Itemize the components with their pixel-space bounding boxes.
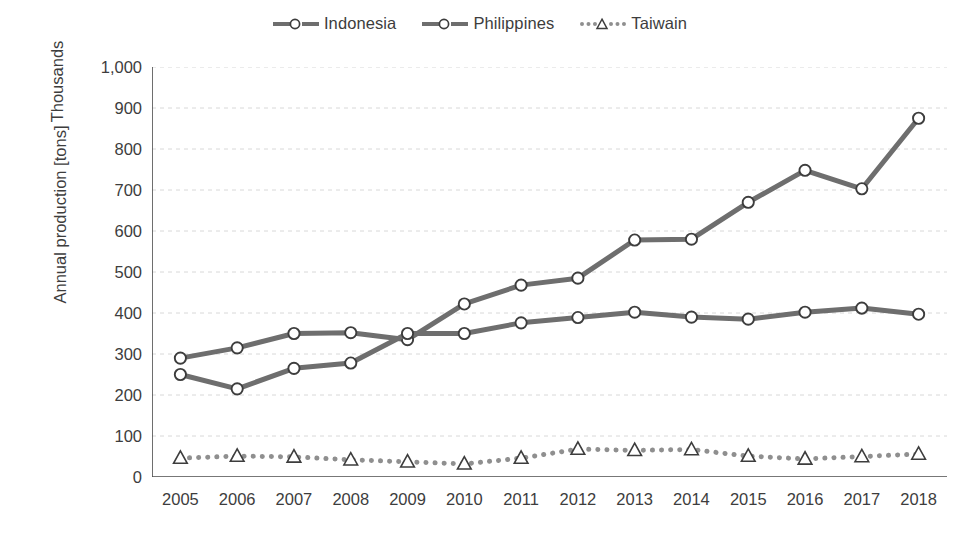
triangle-marker-icon	[595, 17, 609, 31]
data-point-marker	[798, 452, 812, 464]
legend-label-indonesia: Indonesia	[324, 14, 396, 33]
y-axis-tick-label: 1,000	[101, 58, 142, 77]
circle-marker-icon	[288, 17, 302, 31]
data-point-marker	[571, 442, 585, 454]
x-axis-tick-label: 2014	[673, 490, 710, 509]
y-axis-tick-label: 500	[114, 263, 142, 282]
y-axis-tick-label: 600	[114, 222, 142, 241]
data-point-marker	[743, 197, 754, 208]
y-axis-tick-label: 200	[114, 386, 142, 405]
data-point-marker	[459, 328, 470, 339]
data-point-marker	[345, 327, 356, 338]
y-axis-units-label: Thousands	[48, 22, 67, 142]
data-point-marker	[572, 273, 583, 284]
data-point-marker	[402, 328, 413, 339]
y-axis-tick-label: 100	[114, 427, 142, 446]
data-point-marker	[516, 280, 527, 291]
y-axis-tick-label: 700	[114, 181, 142, 200]
chart-legend: Indonesia Philippines Taiwain	[0, 14, 960, 33]
data-point-marker	[913, 309, 924, 320]
legend-symbol-taiwain	[580, 17, 626, 31]
x-axis-tick-label: 2018	[900, 490, 937, 509]
data-point-marker	[516, 317, 527, 328]
legend-symbol-philippines	[422, 17, 468, 31]
x-axis-tick-label: 2011	[503, 490, 538, 509]
legend-symbol-indonesia	[273, 17, 319, 31]
data-point-marker	[686, 234, 697, 245]
x-axis-tick-label: 2007	[276, 490, 313, 509]
data-point-marker	[913, 113, 924, 124]
data-point-marker	[629, 234, 640, 245]
legend-item-philippines[interactable]: Philippines	[422, 14, 554, 33]
x-axis-tick-label: 2010	[446, 490, 483, 509]
legend-label-taiwain: Taiwain	[631, 14, 687, 33]
legend-label-philippines: Philippines	[473, 14, 554, 33]
circle-marker-icon	[437, 17, 451, 31]
data-point-marker	[572, 312, 583, 323]
x-axis-tick-label: 2005	[162, 490, 199, 509]
legend-item-indonesia[interactable]: Indonesia	[273, 14, 396, 33]
y-axis-tick-label: 0	[133, 468, 142, 487]
x-axis-tick-label: 2017	[843, 490, 880, 509]
line-chart: Indonesia Philippines Taiwain Ann	[0, 0, 960, 545]
data-point-marker	[629, 307, 640, 318]
data-point-marker	[175, 353, 186, 364]
series-line-philippines	[180, 308, 918, 389]
data-point-marker	[401, 455, 415, 467]
data-point-marker	[686, 312, 697, 323]
data-point-marker	[799, 307, 810, 318]
x-axis-tick-label: 2012	[560, 490, 597, 509]
plot-svg	[152, 67, 947, 477]
x-axis-tick-label: 2008	[332, 490, 369, 509]
data-point-marker	[628, 443, 642, 455]
plot-area: 01002003004005006007008009001,0002005200…	[152, 67, 947, 477]
data-point-marker	[345, 357, 356, 368]
data-point-marker	[459, 298, 470, 309]
y-axis-tick-label: 800	[114, 140, 142, 159]
y-axis-tick-label: 400	[114, 304, 142, 323]
data-point-marker	[799, 165, 810, 176]
x-axis-tick-label: 2013	[616, 490, 653, 509]
data-point-marker	[856, 302, 867, 313]
y-axis-tick-label: 900	[114, 99, 142, 118]
data-point-marker	[743, 314, 754, 325]
data-point-marker	[232, 383, 243, 394]
y-axis-tick-label: 300	[114, 345, 142, 364]
data-point-marker	[288, 328, 299, 339]
x-axis-tick-label: 2016	[787, 490, 824, 509]
data-point-marker	[174, 451, 188, 463]
legend-item-taiwain[interactable]: Taiwain	[580, 14, 687, 33]
data-point-marker	[855, 449, 869, 461]
data-point-marker	[232, 342, 243, 353]
x-axis-tick-label: 2015	[730, 490, 767, 509]
x-axis-tick-label: 2006	[219, 490, 256, 509]
x-axis-tick-label: 2009	[389, 490, 426, 509]
data-point-marker	[856, 183, 867, 194]
data-point-marker	[175, 369, 186, 380]
data-point-marker	[288, 363, 299, 374]
